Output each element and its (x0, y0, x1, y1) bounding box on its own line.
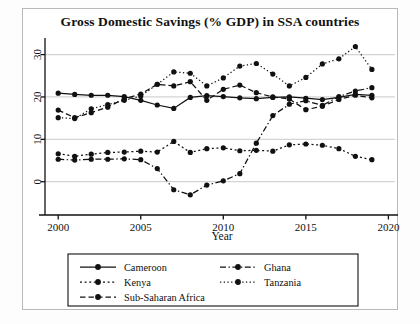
x-axis (39, 215, 398, 220)
data-point (188, 95, 193, 100)
data-point (237, 63, 242, 68)
data-point (138, 157, 143, 162)
legend-label: Kenya (124, 277, 151, 288)
data-point (105, 93, 110, 98)
data-point (237, 148, 242, 153)
data-point (204, 98, 209, 103)
series-line (58, 141, 372, 159)
data-point (320, 97, 325, 102)
y-tick-label: 0 (31, 178, 43, 184)
legend-marker (95, 279, 101, 285)
data-point (287, 142, 292, 147)
data-point (303, 141, 308, 146)
data-point (320, 143, 325, 148)
y-tick-labels: 0102030 (31, 49, 43, 185)
series-kenya (56, 139, 375, 162)
series-ghana (56, 85, 375, 197)
data-point (254, 96, 259, 101)
legend-marker (95, 294, 101, 300)
legend-marker (235, 279, 241, 285)
data-point (336, 94, 341, 99)
data-point (56, 91, 61, 96)
data-point (369, 95, 374, 100)
data-point (336, 56, 341, 61)
series-sub-saharan-africa (56, 79, 375, 120)
data-point (237, 95, 242, 100)
data-point (171, 187, 176, 192)
y-tick-label: 30 (31, 49, 43, 61)
data-point (171, 106, 176, 111)
data-point (270, 149, 275, 154)
y-tick-label: 20 (31, 91, 43, 103)
data-point (56, 115, 61, 120)
data-series-group (56, 44, 375, 197)
data-point (72, 116, 77, 121)
data-point (221, 178, 226, 183)
series-tanzania (56, 44, 375, 121)
data-point (204, 83, 209, 88)
chart-canvas: 0102030 20002005201020152020 Year Camero… (0, 0, 420, 324)
data-point (254, 148, 259, 153)
data-point (369, 85, 374, 90)
data-point (320, 61, 325, 66)
data-point (89, 157, 94, 162)
data-point (221, 75, 226, 80)
y-axis (41, 38, 46, 215)
data-point (171, 69, 176, 74)
data-point (171, 83, 176, 88)
data-point (188, 71, 193, 76)
series-line (58, 88, 372, 195)
data-point (105, 150, 110, 155)
data-point (336, 146, 341, 151)
data-point (89, 152, 94, 157)
data-point (105, 102, 110, 107)
data-point (72, 157, 77, 162)
data-point (320, 103, 325, 108)
data-point (204, 146, 209, 151)
data-point (303, 107, 308, 112)
data-point (188, 150, 193, 155)
data-point (122, 156, 127, 161)
x-tick-label: 2020 (377, 221, 400, 233)
x-axis-title: Year (211, 230, 232, 242)
legend-marker (235, 264, 241, 270)
data-point (56, 151, 61, 156)
y-tick-label: 10 (31, 133, 43, 145)
data-point (171, 139, 176, 144)
data-point (204, 182, 209, 187)
data-point (155, 102, 160, 107)
data-point (155, 166, 160, 171)
data-point (287, 83, 292, 88)
data-point (122, 149, 127, 154)
legend-label: Ghana (264, 262, 291, 273)
data-point (72, 92, 77, 97)
data-point (188, 192, 193, 197)
data-point (122, 98, 127, 103)
data-point (221, 94, 226, 99)
data-point (89, 106, 94, 111)
x-tick-label: 2000 (47, 221, 70, 233)
chart-root: Gross Domestic Savings (% GDP) in SSA co… (0, 0, 420, 324)
data-point (237, 171, 242, 176)
data-point (287, 102, 292, 107)
legend-box: CameroonKenyaSub-Saharan AfricaGhanaTanz… (68, 254, 358, 306)
legend-marker (95, 264, 101, 270)
data-point (353, 154, 358, 159)
data-point (105, 157, 110, 162)
data-point (155, 149, 160, 154)
data-point (369, 67, 374, 72)
data-point (270, 71, 275, 76)
data-point (369, 157, 374, 162)
x-tick-label: 2015 (295, 221, 318, 233)
legend-label: Sub-Saharan Africa (124, 292, 205, 303)
data-point (303, 75, 308, 80)
data-point (138, 149, 143, 154)
data-point (303, 98, 308, 103)
data-point (155, 82, 160, 87)
data-point (270, 94, 275, 99)
data-point (254, 61, 259, 66)
data-point (89, 93, 94, 98)
data-point (353, 88, 358, 93)
gridlines (45, 55, 395, 182)
legend-label: Tanzania (264, 277, 301, 288)
